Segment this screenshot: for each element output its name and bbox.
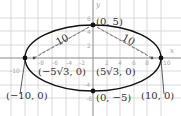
vertex-label-left: (−10, 0) [6, 91, 48, 101]
x-axis-label: x [170, 48, 174, 55]
focus-label-right: (5√3, 0) [96, 67, 136, 77]
vertex-label-right: (10, 0) [141, 91, 174, 101]
y-tick: -6 [86, 96, 92, 102]
y-tick: 6 [87, 16, 91, 22]
y-tick: 4 [87, 29, 91, 35]
vertex-label-bottom: (0, −5) [96, 93, 131, 103]
focus-label-left: (−5√3, 0) [38, 67, 86, 77]
x-tick: 8 [145, 60, 149, 66]
vertex-label-top: (0, 5) [96, 17, 123, 27]
x-tick: 10 [163, 60, 171, 66]
x-tick: -10 [10, 68, 20, 74]
y-axis-label: y [96, 2, 100, 9]
y-tick: -4 [84, 82, 90, 88]
y-tick: 2 [87, 43, 91, 49]
ellipse-diagram: y x -8 -6 -4 -2 2 4 6 8 10 -10 6 4 2 -4 … [0, 0, 181, 116]
